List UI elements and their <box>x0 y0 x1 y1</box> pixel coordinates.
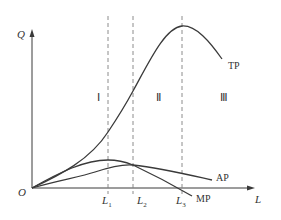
region-1-label: Ⅰ <box>97 91 100 103</box>
ap-curve <box>32 165 212 188</box>
region-2-label: Ⅱ <box>156 91 161 103</box>
l2-label: L2 <box>136 194 147 209</box>
l3-label: L3 <box>175 194 186 209</box>
marker-lines <box>108 16 182 194</box>
l1-label: L1 <box>101 194 112 209</box>
y-axis-label: Q <box>17 28 25 40</box>
curves <box>32 26 222 196</box>
x-axis-arrow-icon <box>247 186 255 191</box>
ap-label: AP <box>216 172 229 183</box>
mp-curve <box>32 160 192 196</box>
origin-label: O <box>18 186 26 198</box>
production-curves-chart: Q L O L1 L2 L3 TP AP MP Ⅰ Ⅱ Ⅲ <box>0 0 281 220</box>
y-axis-arrow-icon <box>30 29 35 37</box>
x-axis-label: L <box>254 193 261 205</box>
tp-curve <box>32 26 222 188</box>
tp-label: TP <box>228 60 240 71</box>
region-3-label: Ⅲ <box>220 91 228 103</box>
mp-label: MP <box>196 193 211 204</box>
